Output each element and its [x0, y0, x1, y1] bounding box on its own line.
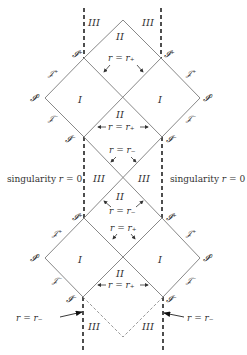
- svg-text:𝓘⁺: 𝓘⁺: [166, 212, 177, 222]
- region-III-middle-right: III: [137, 173, 151, 184]
- svg-text:𝓘⁰: 𝓘⁰: [30, 253, 40, 263]
- svg-text:singularity r = 0: singularity r = 0: [170, 174, 245, 184]
- region-I-upper-left: I: [77, 94, 83, 105]
- svg-text:r = r₋: r = r₋: [109, 145, 136, 155]
- svg-text:singularity r = 0: singularity r = 0: [7, 174, 82, 184]
- svg-text:r = r₊: r = r₊: [108, 280, 135, 290]
- svg-text:𝒥⁻: 𝒥⁻: [185, 276, 196, 285]
- svg-text:r = r₋: r = r₋: [109, 206, 136, 216]
- diagram-svg: III III II I I II III III II I I II III …: [0, 0, 247, 355]
- svg-text:𝓘⁺: 𝓘⁺: [164, 49, 175, 59]
- region-II-top: II: [115, 31, 125, 42]
- svg-text:𝒥⁺: 𝒥⁺: [185, 229, 196, 238]
- svg-text:𝓘⁺: 𝓘⁺: [72, 212, 83, 222]
- horizon-labels: r = r₊ r = r₊ r = r₋ r = r₋ r = r₊ r = r…: [98, 53, 148, 290]
- svg-text:r = r₋: r = r₋: [16, 313, 43, 323]
- singularity-labels: singularity r = 0 singularity r = 0: [7, 174, 245, 184]
- svg-text:r = r₊: r = r₊: [108, 122, 135, 132]
- svg-text:𝓘⁰: 𝓘⁰: [203, 93, 213, 103]
- svg-text:𝒥⁺: 𝒥⁺: [47, 69, 58, 78]
- svg-text:r = r₋: r = r₋: [187, 313, 214, 323]
- region-III-middle-left: III: [92, 173, 106, 184]
- svg-text:𝒥⁺: 𝒥⁺: [185, 69, 196, 78]
- svg-text:𝒥⁻: 𝒥⁻: [47, 114, 58, 123]
- penrose-diagram: III III II I I II III III II I I II III …: [0, 0, 247, 355]
- region-I-upper-right: I: [157, 94, 163, 105]
- svg-text:𝒥⁻: 𝒥⁻: [51, 276, 62, 285]
- region-III-top-right: III: [141, 17, 155, 28]
- svg-text:r = r₊: r = r₊: [108, 53, 135, 63]
- svg-text:𝓘⁰: 𝓘⁰: [30, 93, 40, 103]
- svg-text:𝓘⁻: 𝓘⁻: [66, 294, 77, 304]
- svg-text:𝒥⁺: 𝒥⁺: [51, 229, 62, 238]
- bottom-rminus-labels: r = r₋ r = r₋: [16, 312, 214, 323]
- svg-text:𝓘⁰: 𝓘⁰: [203, 253, 213, 263]
- region-III-bottom-left: III: [87, 321, 101, 332]
- svg-text:𝓘⁺: 𝓘⁺: [72, 49, 83, 59]
- svg-text:𝒥⁻: 𝒥⁻: [185, 114, 196, 123]
- region-III-top-left: III: [87, 17, 101, 28]
- svg-text:𝓘⁻: 𝓘⁻: [65, 134, 76, 144]
- region-I-lower-left: I: [77, 254, 83, 265]
- region-II-lower-middle: II: [115, 191, 125, 202]
- svg-text:𝓘⁻: 𝓘⁻: [166, 134, 177, 144]
- region-III-bottom-right: III: [141, 321, 155, 332]
- region-II-upper-middle: II: [115, 109, 125, 120]
- region-II-bottom: II: [115, 268, 125, 279]
- svg-text:𝓘⁻: 𝓘⁻: [166, 294, 177, 304]
- svg-text:r = r₊: r = r₊: [110, 223, 137, 233]
- region-I-lower-right: I: [157, 254, 163, 265]
